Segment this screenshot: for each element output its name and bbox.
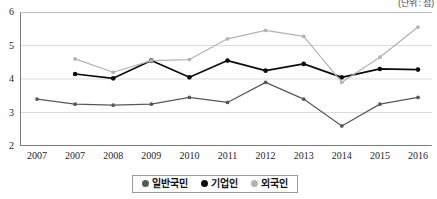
- data-point: [416, 96, 420, 100]
- data-point: [378, 55, 382, 59]
- data-point: [340, 124, 344, 128]
- data-point: [149, 59, 153, 63]
- data-point: [378, 102, 382, 106]
- data-point: [111, 70, 115, 74]
- data-point: [73, 72, 78, 77]
- data-point: [35, 97, 39, 101]
- data-point: [378, 67, 383, 72]
- x-tick-label: 2008: [103, 150, 123, 162]
- data-point: [302, 97, 306, 101]
- data-point: [264, 80, 268, 84]
- x-tick-label: 2007: [27, 150, 47, 162]
- y-axis-tick-labels: 23456: [0, 12, 17, 146]
- x-tick-label: 2016: [408, 150, 428, 162]
- series-2: [73, 58, 421, 80]
- data-point: [301, 62, 306, 67]
- line-chart: (단위 : 점) 23456 2007200720082009201020112…: [0, 0, 437, 199]
- y-tick-label: 5: [9, 41, 14, 51]
- legend-label: 일반국민: [152, 178, 188, 189]
- x-tick-label: 2014: [332, 150, 352, 162]
- data-point: [416, 25, 420, 29]
- y-tick-label: 6: [9, 7, 14, 17]
- data-point: [188, 58, 192, 62]
- data-point: [340, 75, 345, 80]
- legend-label: 외국인: [261, 178, 288, 189]
- data-point: [340, 80, 344, 84]
- data-point: [225, 58, 230, 63]
- data-point: [73, 57, 77, 61]
- x-tick-label: 2010: [179, 150, 199, 162]
- x-tick-label: 2012: [256, 150, 276, 162]
- data-point: [226, 37, 230, 41]
- legend-item-2[interactable]: 기업인: [201, 178, 238, 189]
- y-tick-label: 4: [9, 74, 14, 84]
- chart-legend: 일반국민기업인외국인: [132, 175, 298, 193]
- x-tick-label: 2007: [65, 150, 85, 162]
- data-point: [111, 103, 115, 107]
- x-axis-tick-labels: 2007200720082009201020112012201320142015…: [20, 150, 432, 166]
- data-point: [187, 75, 192, 80]
- y-tick-label: 3: [9, 108, 14, 118]
- unit-note: (단위 : 점): [398, 0, 434, 9]
- plot-area: [20, 12, 432, 146]
- data-point: [263, 68, 268, 73]
- legend-item-1[interactable]: 일반국민: [142, 178, 188, 189]
- data-point: [226, 101, 230, 105]
- series-1: [35, 80, 420, 127]
- data-point: [73, 102, 77, 106]
- x-tick-label: 2015: [370, 150, 390, 162]
- series-line: [75, 27, 418, 82]
- series-3: [73, 25, 420, 84]
- y-tick-label: 2: [9, 141, 14, 151]
- legend-marker-icon: [142, 180, 149, 187]
- plot-svg: [20, 12, 432, 146]
- x-tick-label: 2013: [294, 150, 314, 162]
- x-tick-label: 2011: [218, 150, 238, 162]
- legend-marker-icon: [201, 180, 208, 187]
- data-point: [111, 76, 116, 81]
- series-line: [75, 61, 418, 79]
- legend-item-3[interactable]: 외국인: [251, 178, 288, 189]
- data-point: [302, 35, 306, 39]
- data-point: [149, 102, 153, 106]
- legend-label: 기업인: [211, 178, 238, 189]
- data-point: [188, 96, 192, 100]
- legend-marker-icon: [251, 180, 258, 187]
- x-tick-label: 2009: [141, 150, 161, 162]
- data-point: [416, 67, 421, 72]
- data-point: [264, 29, 268, 33]
